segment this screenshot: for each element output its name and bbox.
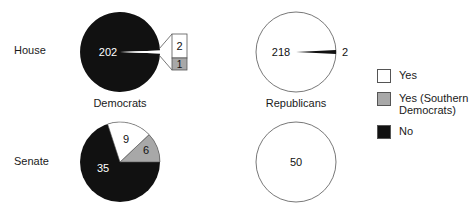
svg-text:50: 50 — [290, 156, 302, 168]
pie-house-republicans: 218 2 — [256, 12, 348, 92]
pie-senate-republicans: 50 — [256, 122, 336, 202]
legend-swatch-yes — [377, 69, 391, 83]
svg-text:1: 1 — [177, 59, 183, 70]
legend-item-yes-southern: Yes (Southern Democrats) — [377, 92, 475, 116]
svg-text:202: 202 — [99, 46, 117, 58]
svg-text:2: 2 — [176, 40, 182, 52]
svg-text:9: 9 — [123, 133, 129, 145]
svg-text:218: 218 — [272, 46, 290, 58]
svg-text:35: 35 — [97, 162, 109, 174]
legend-item-yes: Yes — [377, 69, 475, 83]
legend: Yes Yes (Southern Democrats) No — [377, 69, 475, 148]
pie-house-democrats: 2 1 202 — [80, 12, 187, 92]
pie-senate-democrats: 9 6 35 — [80, 122, 160, 202]
legend-swatch-yes-southern — [377, 92, 391, 106]
legend-swatch-no — [377, 125, 391, 139]
legend-item-no: No — [377, 125, 475, 139]
svg-text:6: 6 — [143, 144, 149, 156]
svg-text:2: 2 — [342, 46, 348, 58]
